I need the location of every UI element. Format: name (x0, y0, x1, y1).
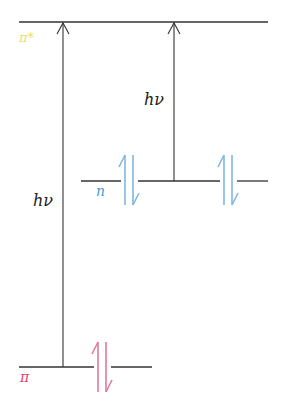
transition-arrow-pi-pistar (57, 23, 69, 367)
hv-label-pi-pistar: hν (33, 193, 53, 209)
electron-pair-n-left (119, 155, 139, 205)
electron-pair-n-right (218, 155, 238, 205)
pi-label: π (20, 370, 29, 384)
hv-label-n-pistar: hν (144, 92, 164, 108)
pi-star-label: π* (19, 31, 34, 44)
n-label: n (96, 184, 105, 198)
electron-pair-pi (92, 342, 112, 392)
transition-arrow-n-pistar (168, 23, 180, 181)
